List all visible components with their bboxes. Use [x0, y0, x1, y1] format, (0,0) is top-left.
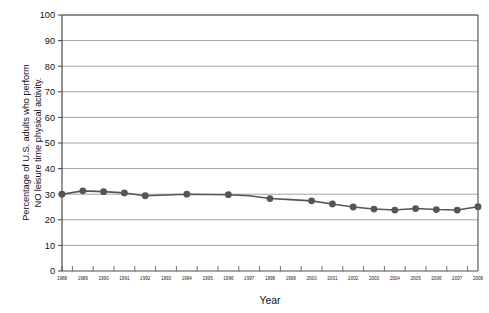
data-point-2000	[308, 197, 315, 204]
x-tick-label-2003: 2003	[369, 276, 380, 281]
data-point-1991	[121, 190, 128, 197]
data-point-1998	[267, 195, 274, 202]
data-point-2006	[433, 206, 440, 213]
data-point-1992	[142, 192, 149, 199]
data-point-1990	[100, 188, 107, 195]
y-axis-title: Percentage of U.S. adults who perform NO…	[14, 0, 50, 285]
x-tick-label-1997: 1997	[244, 276, 255, 281]
data-point-2002	[350, 204, 357, 211]
data-point-1996	[225, 191, 232, 198]
y-tick-label-0: 0	[50, 266, 55, 276]
y-axis-title-line-1: Percentage of U.S. adults who perform	[21, 64, 33, 221]
y-axis-title-line-2: NO leisure time physical activity.	[32, 64, 44, 221]
x-tick-label-2001: 2001	[327, 276, 338, 281]
x-tick-label-2007: 2007	[452, 276, 463, 281]
x-tick-label-1991: 1991	[119, 276, 130, 281]
x-tick-label-2000: 2000	[306, 276, 317, 281]
data-point-1994	[183, 191, 190, 198]
x-tick-label-1995: 1995	[202, 276, 213, 281]
x-tick-label-2005: 2005	[410, 276, 421, 281]
data-point-2004	[391, 207, 398, 214]
x-tick-label-1992: 1992	[140, 276, 151, 281]
data-point-2007	[454, 207, 461, 214]
x-tick-label-1989: 1989	[78, 276, 89, 281]
x-tick-label-1990: 1990	[98, 276, 109, 281]
data-point-2008	[475, 203, 482, 210]
x-tick-label-1998: 1998	[265, 276, 276, 281]
data-point-1988	[59, 191, 66, 198]
x-tick-label-1996: 1996	[223, 276, 234, 281]
data-point-2003	[371, 206, 378, 213]
x-tick-label-2002: 2002	[348, 276, 359, 281]
x-tick-label-1988: 1988	[57, 276, 68, 281]
chart-plot-area: 0102030405060708090100198819891990199119…	[0, 0, 489, 313]
x-tick-label-1994: 1994	[182, 276, 193, 281]
x-axis-title: Year	[62, 294, 478, 306]
x-tick-label-1993: 1993	[161, 276, 172, 281]
x-tick-label-2004: 2004	[390, 276, 401, 281]
x-tick-label-2008: 2008	[473, 276, 484, 281]
data-point-2001	[329, 201, 336, 208]
x-tick-label-1999: 1999	[286, 276, 297, 281]
data-point-1989	[79, 187, 86, 194]
x-tick-label-2006: 2006	[431, 276, 442, 281]
chart-container: Percentage of U.S. adults who perform NO…	[0, 0, 489, 313]
data-point-2005	[412, 205, 419, 212]
